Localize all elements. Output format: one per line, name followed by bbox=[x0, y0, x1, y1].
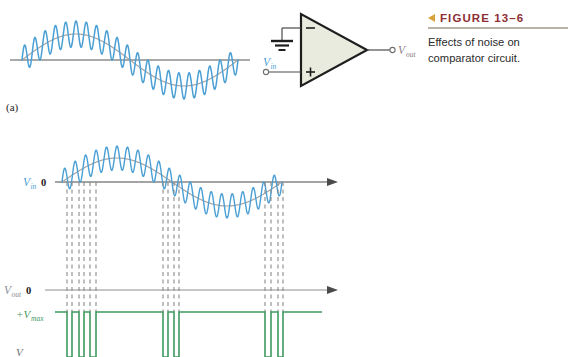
vmin-label: V bbox=[16, 346, 24, 357]
output-terminal-node bbox=[390, 47, 395, 52]
vin-axis-arrow-icon bbox=[327, 178, 338, 186]
vout-zero-label: 0 bbox=[26, 285, 31, 296]
figure-page: FIGURE 13–6 Effects of noise on comparat… bbox=[0, 0, 573, 357]
ground-icon bbox=[271, 41, 293, 50]
input-terminal-node bbox=[263, 69, 268, 74]
circuit-vout-subscript: out bbox=[406, 50, 417, 59]
top-noisy-sine-plot bbox=[0, 8, 260, 113]
vout-subscript: out bbox=[12, 290, 23, 299]
comparator-circuit-diagram: V in V out bbox=[262, 6, 422, 106]
output-square-wave bbox=[55, 312, 322, 357]
figure-number-label: FIGURE 13–6 bbox=[440, 12, 524, 24]
left-triangle-icon bbox=[428, 14, 435, 22]
comparator-timing-diagram: V in 0 +V max V out 0 V bbox=[0, 140, 400, 357]
figure-caption-header: FIGURE 13–6 bbox=[428, 12, 568, 27]
vmax-subscript: max bbox=[31, 314, 44, 323]
figure-caption-block: FIGURE 13–6 Effects of noise on comparat… bbox=[428, 12, 568, 66]
vmax-label: +V bbox=[16, 308, 31, 320]
vin-zero-label: 0 bbox=[41, 177, 46, 188]
caption-divider bbox=[428, 27, 568, 29]
circuit-vin-subscript: in bbox=[271, 62, 277, 71]
vout-axis-arrow-icon bbox=[327, 286, 338, 294]
vin-subscript: in bbox=[31, 182, 37, 191]
figure-caption-text: Effects of noise on comparator circuit. bbox=[428, 34, 570, 66]
